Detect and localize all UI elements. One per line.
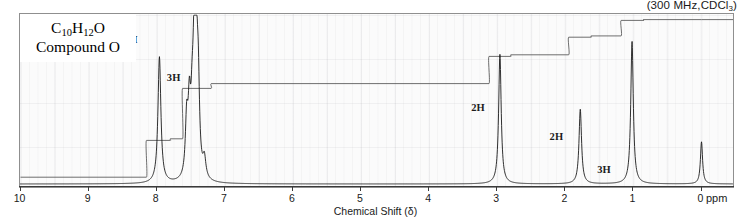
x-tick-label-3: 3 (493, 192, 499, 204)
formula-oxygen: O (94, 19, 105, 36)
x-tick-8 (156, 187, 157, 191)
x-axis-unit-label: ppm (706, 192, 727, 204)
x-tick-10 (20, 187, 21, 191)
compound-name: Compound O (36, 38, 120, 56)
x-tick-1 (632, 187, 633, 191)
x-tick-3 (496, 187, 497, 191)
x-tick-label-1: 1 (629, 192, 635, 204)
x-tick-6 (292, 187, 293, 191)
x-tick-5 (360, 187, 361, 191)
x-axis-title: Chemical Shift (δ) (0, 205, 751, 217)
x-tick-label-0: 0 (698, 192, 704, 204)
x-axis: 109876543210 (19, 186, 734, 188)
x-tick-label-5: 5 (357, 192, 363, 204)
acquisition-conditions-label: (300 MHz,CDCl3) (647, 0, 737, 13)
x-tick-4 (428, 187, 429, 191)
x-tick-2 (564, 187, 565, 191)
x-tick-label-7: 7 (221, 192, 227, 204)
formula-carbon-count: 10 (61, 27, 72, 38)
integration-label-3h-1: 3H (167, 72, 181, 83)
conditions-close-paren: ) (733, 0, 737, 11)
integration-label-3h-4: 3H (597, 164, 611, 175)
x-tick-label-8: 8 (153, 192, 159, 204)
x-tick-label-2: 2 (561, 192, 567, 204)
molecular-formula: C10H12O (36, 19, 120, 39)
formula-hydrogen-count: 12 (83, 27, 94, 38)
x-axis-line (19, 186, 734, 187)
formula-carbon: C (51, 19, 61, 36)
integration-label-2h-2: 2H (471, 102, 485, 113)
x-tick-label-4: 4 (425, 192, 431, 204)
conditions-frequency: (300 MHz (647, 0, 698, 11)
formula-hydrogen: H (72, 19, 83, 36)
x-tick-9 (88, 187, 89, 191)
nmr-spectrum-figure: (300 MHz,CDCl3) C10H12O Compound O 2H3H2… (0, 0, 751, 224)
compound-caption-box: C10H12O Compound O (20, 14, 136, 62)
integration-label-2h-3: 2H (549, 131, 563, 142)
x-tick-label-6: 6 (289, 192, 295, 204)
x-tick-7 (224, 187, 225, 191)
x-tick-label-10: 10 (14, 192, 26, 204)
conditions-solvent: CDCl (701, 0, 729, 11)
x-tick-0 (701, 187, 702, 191)
x-tick-label-9: 9 (85, 192, 91, 204)
